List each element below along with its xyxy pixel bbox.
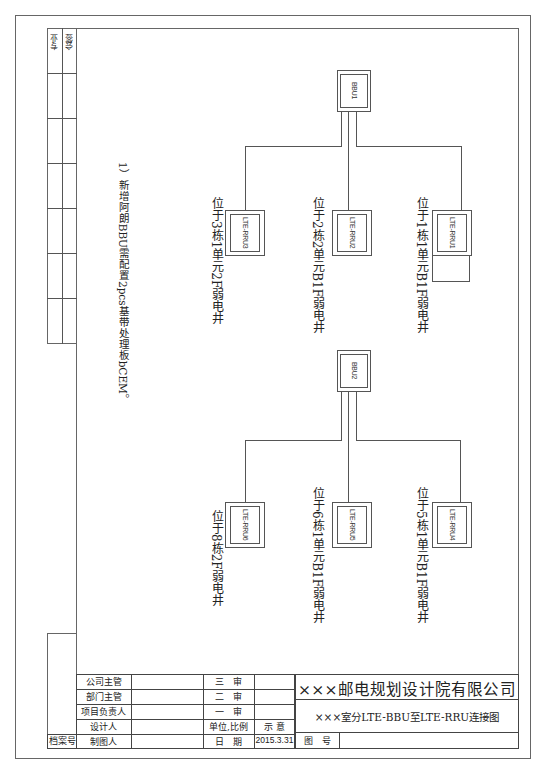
rru3-inner: LTE-RRU3 <box>230 214 260 252</box>
rru1-inner: LTE-RRU1 <box>437 214 467 252</box>
rru6-location: 位于8栋2F弱电井 <box>208 510 225 606</box>
rru6-inner: LTE-RRU6 <box>230 506 260 544</box>
bbu1-label: BBU1 <box>351 82 357 99</box>
rru3-label: LTE-RRU3 <box>242 217 248 248</box>
rru5-inner: LTE-RRU5 <box>337 506 367 544</box>
rru4-label: LTE-RRU4 <box>449 509 455 540</box>
role-dept-supervisor: 部门主管 <box>76 690 131 703</box>
title-block-main: ×××邮电规划设计院有限公司 ×××室分LTE-BBU至LTE-RRU连接图 图… <box>295 674 519 749</box>
drawing-title: ×××室分LTE-BBU至LTE-RRU连接图 <box>295 709 519 724</box>
rru2-inner: LTE-RRU2 <box>337 214 367 252</box>
rru2-location: 位于2栋2单元B1F弱电井 <box>309 197 326 333</box>
rru4-inner: LTE-RRU4 <box>437 506 467 544</box>
rru5-label: LTE-RRU5 <box>349 509 355 540</box>
note-text: 1）新增阿朗BBU需配置2pcs基带处理板bCEM。 <box>116 162 131 405</box>
date-label: 日 期 <box>203 735 254 748</box>
date-value: 2015.3.31 <box>254 735 295 745</box>
bbu1-inner: BBU1 <box>340 74 368 108</box>
scale-value: 示 意 <box>254 720 295 733</box>
rru5-location: 位于6栋1单元B1F弱电井 <box>309 487 326 623</box>
archive-number-label-cell: 档案号 <box>47 734 77 749</box>
rru1-location: 位于1栋1单元B1F弱电井 <box>413 197 430 333</box>
title-block-signatures: 公司主管 部门主管 项目负责人 设计人 制图人 三 审 二 审 一 审 单位,比… <box>76 674 295 749</box>
archive-number-label: 档案号 <box>49 736 76 746</box>
rru2-label: LTE-RRU2 <box>349 217 355 248</box>
drawing-frame <box>76 28 519 749</box>
role-project-lead: 项目负责人 <box>76 705 131 718</box>
unit-scale-label: 单位,比例 <box>203 720 254 733</box>
bbu2-inner: BBU2 <box>340 354 368 388</box>
role-drafter: 制图人 <box>76 735 131 748</box>
drawing-number-label: 图 号 <box>295 734 339 747</box>
role-company-supervisor: 公司主管 <box>76 675 131 688</box>
side-signature-column: 专业 会签 <box>47 28 77 344</box>
bbu2-label: BBU2 <box>351 362 357 379</box>
rru6-label: LTE-RRU6 <box>242 509 248 540</box>
role-designer: 设计人 <box>76 720 131 733</box>
review-second: 二 审 <box>203 690 254 703</box>
rru3-location: 位于3栋1单元2F弱电井 <box>208 197 225 324</box>
rru4-location: 位于5栋1单元B1F弱电井 <box>413 487 430 623</box>
review-third: 三 审 <box>203 675 254 688</box>
review-first: 一 审 <box>203 705 254 718</box>
side-header-specialty: 专业 <box>49 34 60 50</box>
side-header-countersign: 会签 <box>64 34 75 50</box>
side-lower-box <box>47 633 77 749</box>
company-name: ×××邮电规划设计院有限公司 <box>295 677 519 699</box>
rru1-label: LTE-RRU1 <box>449 217 455 248</box>
